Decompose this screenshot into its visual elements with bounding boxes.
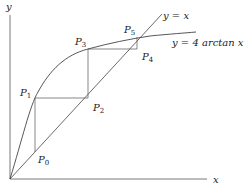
- y-axis-label: y: [5, 1, 12, 12]
- point-label-p0: P0: [37, 154, 49, 167]
- identity-line: [10, 14, 162, 179]
- curve-label: y = 4 arctan x: [171, 37, 244, 48]
- point-label-p1: P1: [19, 87, 31, 100]
- point-label-p5: P5: [123, 24, 135, 37]
- point-label-p4: P4: [141, 51, 154, 64]
- point-label-p3: P3: [74, 36, 86, 49]
- cobweb-diagram: y x y = x y = 4 arctan x P0 P1 P2 P3 P4 …: [0, 0, 245, 196]
- line-label: y = x: [162, 10, 189, 21]
- point-label-p2: P2: [92, 102, 104, 115]
- x-axis-label: x: [213, 174, 219, 185]
